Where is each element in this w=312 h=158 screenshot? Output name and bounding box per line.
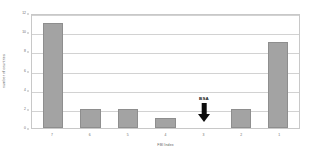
y-axis-tick-label: 4 — [24, 89, 26, 92]
y-axis-tick-mark — [27, 90, 29, 91]
x-axis-tick-label: 4 — [147, 130, 185, 140]
y-axis-tick-label: 6 — [24, 70, 26, 73]
bar-chart: 024681012 number of countries 7654321 FB… — [0, 0, 312, 158]
bar — [118, 109, 138, 128]
x-axis: 7654321 — [31, 130, 300, 140]
bar-slot — [109, 15, 147, 128]
bar-slot — [259, 15, 297, 128]
x-axis-tick-label: 7 — [33, 130, 71, 140]
x-axis-tick-label: 5 — [109, 130, 147, 140]
bar — [231, 109, 251, 128]
y-axis-tick-mark — [27, 129, 29, 130]
bar — [43, 23, 63, 128]
plot-area — [31, 14, 300, 129]
y-axis-tick-mark — [27, 14, 29, 15]
y-axis-tick-label: 10 — [22, 31, 26, 34]
bar — [155, 118, 175, 128]
y-axis-tick-label: 12 — [22, 12, 26, 15]
bar-slot — [72, 15, 110, 128]
bar-slot — [184, 15, 222, 128]
y-axis-tick-label: 8 — [24, 51, 26, 54]
bar-series — [32, 15, 299, 128]
x-axis-tick-label: 3 — [184, 130, 222, 140]
x-axis-tick-label: 2 — [222, 130, 260, 140]
x-axis-tick-label: 1 — [260, 130, 298, 140]
bar — [268, 42, 288, 128]
x-axis-tick-label: 6 — [71, 130, 109, 140]
y-axis-tick-mark — [27, 71, 29, 72]
bar-slot — [222, 15, 260, 128]
y-axis-title: number of countries — [2, 54, 6, 88]
bar-slot — [34, 15, 72, 128]
y-axis-tick-label: 0 — [24, 127, 26, 130]
y-axis-tick-mark — [27, 52, 29, 53]
bar — [80, 109, 100, 128]
y-axis-tick-mark — [27, 33, 29, 34]
y-axis-tick-mark — [27, 109, 29, 110]
bar-slot — [147, 15, 185, 128]
y-axis-tick-label: 2 — [24, 108, 26, 111]
x-axis-title: FBI Index — [31, 143, 300, 147]
